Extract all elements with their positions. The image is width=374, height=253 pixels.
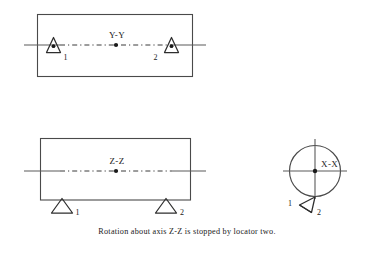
- axis-label-y: Y-Y: [109, 30, 125, 40]
- axis-label-x: X-X: [321, 159, 338, 169]
- front-view-z-axis: Z-Z 1 2: [24, 139, 206, 217]
- locator-2-end: [300, 197, 316, 213]
- axis-centre-point-z: [114, 169, 118, 173]
- axis-centre-point-y: [114, 43, 118, 47]
- locator-triangle-icon: [52, 199, 73, 214]
- locator-1-label-top: 1: [64, 53, 68, 62]
- axis-centre-point-x: [313, 169, 317, 173]
- plan-view-y-axis: 1 2 Y-Y: [24, 15, 206, 77]
- end-view-x-axis: X-X 1 2: [283, 139, 347, 217]
- engineering-locator-diagram: 1 2 Y-Y Z-Z 1: [0, 0, 374, 253]
- locator-contact-dot: [52, 44, 56, 48]
- locator-2-label-end: 2: [317, 208, 321, 217]
- locator-triangle-icon: [156, 199, 177, 214]
- locator-1-label-front: 1: [76, 208, 80, 217]
- axis-label-z: Z-Z: [109, 156, 124, 166]
- diagram-canvas: 1 2 Y-Y Z-Z 1: [0, 0, 374, 253]
- locator-base-edge: [300, 205, 312, 213]
- locator-contact-dot: [170, 44, 174, 48]
- figure-caption: Rotation about axis Z-Z is stopped by lo…: [98, 227, 275, 236]
- locator-2-label-front: 2: [180, 208, 184, 217]
- locator-2-label-top: 2: [154, 53, 158, 62]
- locator-1-label-end: 1: [288, 199, 292, 208]
